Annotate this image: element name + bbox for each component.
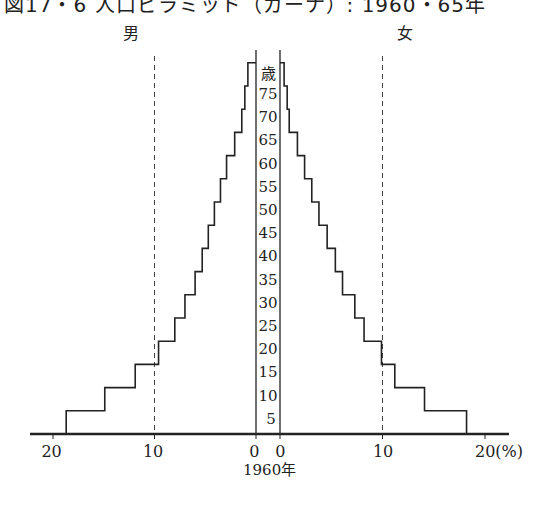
- age-label: 25: [256, 319, 280, 334]
- male-x-tick-label: 10: [143, 444, 163, 460]
- age-label: 60: [256, 157, 280, 172]
- male-x-tick-label: 20: [41, 444, 61, 460]
- age-label: 70: [256, 110, 280, 125]
- age-label: 30: [256, 296, 280, 311]
- age-unit-label: 歳: [256, 67, 280, 82]
- male-x-tick-label: 0: [249, 444, 259, 460]
- age-label: 10: [256, 389, 280, 404]
- age-label: 5: [259, 412, 283, 427]
- male-population-outline: [66, 63, 256, 434]
- age-label: 65: [256, 133, 280, 148]
- age-label: 45: [256, 226, 280, 241]
- female-x-tick-label: 10: [373, 444, 393, 460]
- age-label: 55: [256, 180, 280, 195]
- age-label: 75: [256, 87, 280, 102]
- population-pyramid-chart: 図17・6 人口ピラミッド（ガーナ）: 1960・65年 男 女 歳510152…: [0, 0, 549, 510]
- female-population-outline: [280, 63, 467, 434]
- year-label: 1960年: [243, 463, 296, 478]
- age-label: 50: [256, 203, 280, 218]
- age-label: 35: [256, 273, 280, 288]
- age-label: 20: [256, 342, 280, 357]
- age-label: 40: [256, 249, 280, 264]
- age-label: 15: [256, 365, 280, 380]
- female-x-tick-label: 20(%): [475, 444, 523, 460]
- female-x-tick-label: 0: [275, 444, 285, 460]
